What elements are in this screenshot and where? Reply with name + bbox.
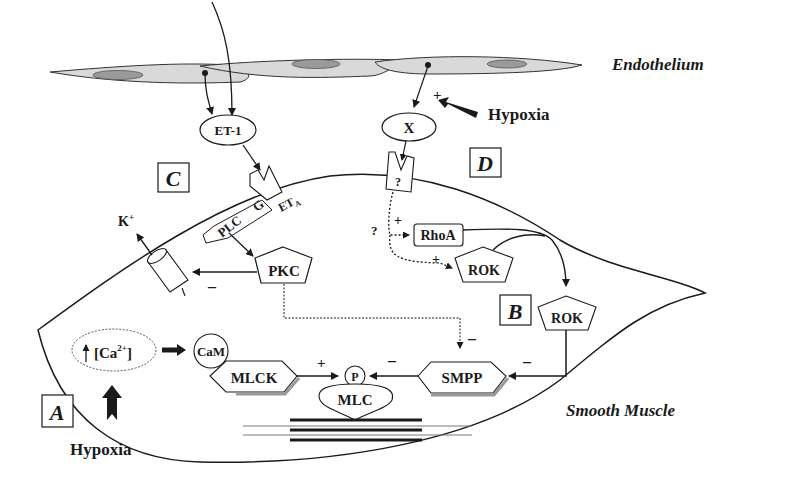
phosphate-label: P <box>351 370 358 384</box>
rok-plus-sign: + <box>432 252 440 267</box>
panel-a-label: A <box>48 400 65 425</box>
et1-to-receptor-arrow <box>243 145 260 170</box>
endothelium-layer <box>50 57 582 83</box>
pkc-inhibits-smpp-dotted-arrow <box>284 284 460 348</box>
rok-inhibits-smpp-arrow <box>509 330 566 376</box>
calcium-label: [Ca2+] <box>94 343 132 361</box>
endothelium-label: Endothelium <box>611 55 704 74</box>
eta-receptor <box>250 166 282 200</box>
mlc-label: MLC <box>338 392 373 408</box>
rhoa-plus-sign: + <box>394 213 402 228</box>
myofilaments <box>243 420 472 440</box>
hypoxia-top-arrow <box>438 97 478 118</box>
rhoa-label: RhoA <box>420 228 456 243</box>
et1-release-arrow <box>212 2 232 115</box>
unknown-path-question: ? <box>371 223 378 238</box>
rok-inner-label: ROK <box>468 263 500 278</box>
pkc-k-minus-sign: – <box>207 278 217 295</box>
panel-b-label: B <box>507 299 523 324</box>
smpp-minus-sign: – <box>387 352 397 369</box>
eta-label: ETA <box>276 192 303 216</box>
rok-smpp-minus-sign: – <box>522 353 532 370</box>
k-efflux-arrow <box>137 234 152 255</box>
x-label: X <box>404 120 415 136</box>
x-to-receptor-arrow <box>402 141 406 160</box>
pkc-label: PKC <box>268 263 300 279</box>
hypoxia-top-label: Hypoxia <box>488 105 550 124</box>
calcium-to-cam-arrowhead <box>177 344 186 356</box>
mlck-label: MLCK <box>231 370 278 386</box>
rok-activation-line <box>493 235 545 250</box>
panel-c-label: C <box>166 166 181 191</box>
mlck-plus-sign: + <box>317 355 326 371</box>
cam-label: CaM <box>197 344 225 359</box>
smooth-muscle-label: Smooth Muscle <box>566 401 676 420</box>
hypoxia-bottom-label: Hypoxia <box>70 440 132 459</box>
pkc-smpp-minus-sign: – <box>467 330 477 347</box>
panel-d-label: D <box>476 151 493 176</box>
et1-label: ET-1 <box>215 123 242 138</box>
smpp-label: SMPP <box>442 370 483 386</box>
hypoxia-bottom-arrow <box>102 385 122 420</box>
rok-b-label: ROK <box>551 311 583 326</box>
plc-to-pkc-arrow <box>229 233 253 256</box>
hypoxic-vasoconstriction-diagram: Endothelium Smooth Muscle ET-1 + Hypoxia… <box>0 0 792 486</box>
unknown-receptor-label: ? <box>395 175 401 189</box>
k-ion-label: K+ <box>118 212 134 229</box>
